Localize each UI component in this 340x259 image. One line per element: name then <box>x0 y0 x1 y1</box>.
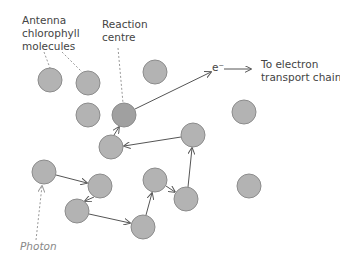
transfer-arrow <box>56 175 87 183</box>
photosystem-diagram: Antenna chlorophyll molecules Reaction c… <box>0 0 340 259</box>
reaction-centre-molecule <box>112 103 136 127</box>
antenna-leader-1 <box>44 52 50 68</box>
antenna-molecule <box>88 174 112 198</box>
transfer-arrow <box>85 197 94 201</box>
antenna-molecule <box>232 100 256 124</box>
antenna-molecule <box>76 71 100 95</box>
photon-label: Photon <box>20 240 57 253</box>
transfer-arrow <box>166 186 175 192</box>
antenna-leader-2 <box>62 52 82 72</box>
transfer-arrow <box>114 127 119 135</box>
transfer-arrow <box>188 148 192 187</box>
reaction-centre-leader <box>118 48 123 103</box>
transfer-arrow <box>89 214 130 223</box>
transfer-arrow <box>124 137 181 146</box>
antenna-molecule <box>131 215 155 239</box>
destination-label: To electron transport chain <box>261 58 340 84</box>
antenna-molecule <box>38 68 62 92</box>
antenna-molecule <box>65 199 89 223</box>
antenna-molecule <box>76 103 100 127</box>
antenna-molecule <box>143 60 167 84</box>
antenna-molecule <box>174 187 198 211</box>
electron-label: e⁻ <box>212 61 224 74</box>
photon-arrow <box>36 186 42 240</box>
reaction-centre-label: Reaction centre <box>102 18 148 44</box>
antenna-molecule <box>143 168 167 192</box>
antenna-label: Antenna chlorophyll molecules <box>22 14 80 53</box>
transfer-arrow <box>146 193 152 215</box>
antenna-molecule <box>32 160 56 184</box>
antenna-molecule <box>181 123 205 147</box>
antenna-molecule <box>99 135 123 159</box>
antenna-molecule <box>237 174 261 198</box>
